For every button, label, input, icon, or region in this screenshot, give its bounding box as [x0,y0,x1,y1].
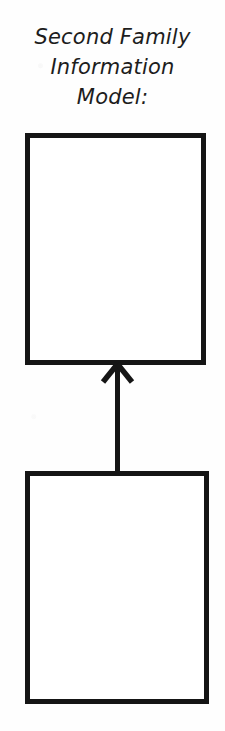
parent-class-box[interactable] [25,133,206,365]
title-line-1: Second Family [0,22,225,52]
diagram-title: Second Family Information Model: [0,22,225,112]
diagram-canvas: Second Family Information Model: [0,0,225,731]
title-line-3: Model: [0,82,225,112]
title-line-2: Information [0,52,225,82]
child-class-box[interactable] [25,471,209,704]
generalization-arrow[interactable] [95,358,145,476]
